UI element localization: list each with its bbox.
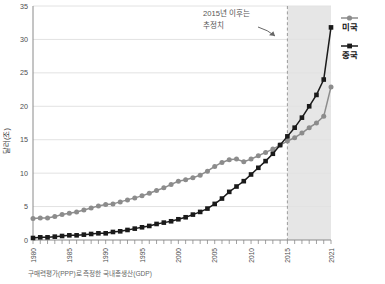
x-tick-label: 2000 <box>175 248 182 263</box>
data-point-marker <box>103 202 108 207</box>
legend-item-usa: 미국 <box>341 15 358 32</box>
legend-label: 중국 <box>342 50 358 60</box>
data-point-marker <box>67 233 72 238</box>
y-tick-label: 15 <box>20 135 28 144</box>
data-point-marker <box>292 135 297 140</box>
data-point-marker <box>147 224 152 229</box>
x-tick-label: 1980 <box>30 248 37 263</box>
x-tick-label: 1985 <box>66 248 73 263</box>
data-point-marker <box>31 216 36 221</box>
x-axis-ticks <box>33 240 331 244</box>
data-point-marker <box>263 150 268 155</box>
data-point-marker <box>205 206 210 211</box>
x-tick-label: 1990 <box>102 248 109 263</box>
data-point-marker <box>314 121 319 126</box>
data-point-marker <box>74 209 79 214</box>
data-point-marker <box>154 222 159 227</box>
chart-canvas: 05101520253035 1980198519901995200020052… <box>0 0 385 284</box>
data-point-marker <box>278 143 283 148</box>
data-point-marker <box>263 159 268 164</box>
data-point-marker <box>212 164 217 169</box>
data-point-marker <box>125 228 130 233</box>
data-point-marker <box>271 151 276 156</box>
data-point-marker <box>183 177 188 182</box>
data-point-marker <box>82 232 87 237</box>
chart-legend: 미국중국 <box>341 15 358 60</box>
forecast-note-line2: 추정치 <box>203 20 224 30</box>
data-point-marker <box>74 233 79 238</box>
y-tick-label: 35 <box>20 2 28 11</box>
data-point-marker <box>147 191 152 196</box>
y-tick-label: 5 <box>24 202 28 211</box>
data-point-marker <box>241 159 246 164</box>
data-point-marker <box>329 25 334 30</box>
y-axis-title-label: 달러(조) <box>2 128 11 154</box>
data-point-marker <box>183 215 188 220</box>
data-point-marker <box>256 165 261 170</box>
data-point-marker <box>140 225 145 230</box>
y-axis-tick-labels: 05101520253035 <box>20 2 28 245</box>
data-point-marker <box>111 230 116 235</box>
data-point-marker <box>227 190 232 195</box>
forecast-note-line1: 2015년 이후는 <box>203 8 250 18</box>
data-point-marker <box>307 104 312 109</box>
data-point-marker <box>249 172 254 177</box>
data-point-marker <box>190 175 195 180</box>
data-point-marker <box>89 232 94 237</box>
y-tick-label: 10 <box>20 169 28 178</box>
legend-label: 미국 <box>342 22 358 32</box>
data-point-marker <box>60 212 65 217</box>
data-point-marker <box>118 229 123 234</box>
data-point-marker <box>219 160 224 165</box>
data-point-marker <box>198 173 203 178</box>
data-point-marker <box>256 153 261 158</box>
data-point-marker <box>299 131 304 136</box>
data-point-marker <box>285 134 290 139</box>
legend-marker-circle-icon <box>347 15 352 20</box>
data-point-marker <box>81 207 86 212</box>
y-tick-label: 25 <box>20 68 28 77</box>
data-point-marker <box>176 217 181 222</box>
data-point-marker <box>89 205 94 210</box>
y-tick-label: 20 <box>20 102 28 111</box>
data-point-marker <box>132 226 137 231</box>
x-tick-label: 2005 <box>211 248 218 263</box>
data-point-marker <box>52 214 57 219</box>
forecast-annotation: 2015년 이후는 추정치 <box>203 8 275 36</box>
gdp-comparison-chart: 05101520253035 1980198519901995200020052… <box>0 0 385 284</box>
gridlines <box>33 6 331 207</box>
data-point-marker <box>191 212 196 217</box>
data-point-marker <box>96 203 101 208</box>
y-axis-title: 달러(조) <box>2 128 11 154</box>
data-point-marker <box>45 235 50 240</box>
data-point-marker <box>292 125 297 130</box>
y-tick-label: 30 <box>20 35 28 44</box>
data-point-marker <box>314 93 319 98</box>
data-point-marker <box>60 234 65 239</box>
data-point-marker <box>169 182 174 187</box>
data-point-marker <box>162 220 167 225</box>
data-point-marker <box>241 179 246 184</box>
y-tick-label: 0 <box>24 236 28 245</box>
forecast-shaded-band <box>287 6 331 240</box>
data-point-marker <box>140 193 145 198</box>
data-point-marker <box>103 231 108 236</box>
data-point-marker <box>234 157 239 162</box>
x-tick-label: 2015 <box>284 248 291 263</box>
legend-item-china: 중국 <box>341 44 358 60</box>
data-point-marker <box>38 235 43 240</box>
data-point-marker <box>205 169 210 174</box>
data-point-marker <box>45 215 50 220</box>
data-point-marker <box>300 115 305 120</box>
data-point-marker <box>220 196 225 201</box>
data-point-marker <box>198 210 203 215</box>
data-point-marker <box>329 84 334 89</box>
data-point-marker <box>110 201 115 206</box>
data-point-marker <box>67 211 72 216</box>
data-point-marker <box>118 199 123 204</box>
x-tick-label: 2021 <box>328 248 335 263</box>
data-point-marker <box>227 157 232 162</box>
data-point-marker <box>234 184 239 189</box>
data-point-marker <box>125 197 130 202</box>
x-tick-label: 2010 <box>248 248 255 263</box>
